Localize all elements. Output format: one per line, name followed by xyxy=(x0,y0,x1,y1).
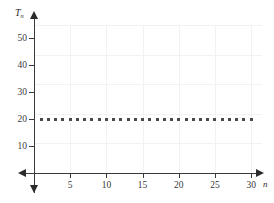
y-axis-tick-label: 50 xyxy=(0,33,27,43)
x-axis-tick-label: 30 xyxy=(239,180,263,190)
plot-area xyxy=(34,25,262,173)
data-point xyxy=(119,118,122,121)
data-point xyxy=(40,118,43,121)
gridline-vertical xyxy=(179,25,180,173)
gridline-vertical xyxy=(70,25,71,173)
gridline-horizontal xyxy=(34,55,262,56)
data-point xyxy=(250,118,253,121)
y-axis-tick-label: 20 xyxy=(0,114,27,124)
y-axis-tick-label: 40 xyxy=(0,60,27,70)
data-point xyxy=(148,118,151,121)
data-point xyxy=(192,118,195,121)
data-point xyxy=(54,118,57,121)
y-axis-tick xyxy=(29,146,34,147)
data-point xyxy=(177,118,180,121)
x-axis-tick-label: 5 xyxy=(58,180,82,190)
x-axis-tick xyxy=(251,173,252,178)
data-point xyxy=(221,118,224,121)
x-axis-tick-label: 20 xyxy=(167,180,191,190)
x-axis-tick xyxy=(106,173,107,178)
x-axis-tick xyxy=(179,173,180,178)
data-point xyxy=(141,118,144,121)
data-point xyxy=(105,118,108,121)
data-point xyxy=(213,118,216,121)
x-axis-tick xyxy=(143,173,144,178)
chart-container: 1020304050 51015202530 Tn n xyxy=(0,0,274,203)
x-axis-arrow-left-icon xyxy=(18,169,26,177)
data-point xyxy=(163,118,166,121)
gridline-vertical xyxy=(251,25,252,173)
x-axis-tick-label: 10 xyxy=(94,180,118,190)
y-axis-arrow-up-icon xyxy=(30,11,38,19)
data-point xyxy=(228,118,231,121)
data-point xyxy=(127,118,130,121)
y-axis-title-subscript: n xyxy=(21,12,24,19)
gridline-vertical xyxy=(106,25,107,173)
x-axis-title: n xyxy=(263,179,268,189)
y-axis-tick xyxy=(29,38,34,39)
gridline-horizontal xyxy=(34,84,262,85)
y-axis-tick xyxy=(29,65,34,66)
data-point xyxy=(90,118,93,121)
data-point xyxy=(61,118,64,121)
data-point xyxy=(69,118,72,121)
data-point xyxy=(76,118,79,121)
x-axis-tick xyxy=(215,173,216,178)
data-point xyxy=(47,118,50,121)
data-point xyxy=(206,118,209,121)
y-axis-tick-label: 30 xyxy=(0,87,27,97)
gridline-vertical xyxy=(143,25,144,173)
data-point xyxy=(235,118,238,121)
data-point xyxy=(185,118,188,121)
data-point xyxy=(112,118,115,121)
y-axis-title: Tn xyxy=(15,7,24,19)
y-axis-arrow-down-icon xyxy=(30,185,38,193)
data-point xyxy=(170,118,173,121)
gridline-horizontal xyxy=(34,25,262,26)
data-point xyxy=(242,118,245,121)
x-axis-tick-label: 25 xyxy=(203,180,227,190)
data-point xyxy=(199,118,202,121)
x-axis-arrow-right-icon xyxy=(256,169,264,177)
data-point xyxy=(134,118,137,121)
y-axis-tick xyxy=(29,119,34,120)
gridline-horizontal xyxy=(34,143,262,144)
data-point xyxy=(98,118,101,121)
y-axis-line xyxy=(34,17,35,193)
data-point xyxy=(83,118,86,121)
data-point xyxy=(156,118,159,121)
y-axis-tick xyxy=(29,92,34,93)
gridline-vertical xyxy=(215,25,216,173)
gridline-horizontal xyxy=(34,114,262,115)
x-axis-tick-label: 15 xyxy=(131,180,155,190)
x-axis-tick xyxy=(70,173,71,178)
y-axis-tick-label: 10 xyxy=(0,141,27,151)
